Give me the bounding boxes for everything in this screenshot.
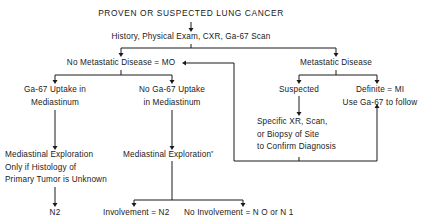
involvement-n2-node: Involvement = N2: [103, 207, 169, 220]
definite-line1: Definite = MI: [343, 84, 418, 97]
n2-result-node: N2: [50, 207, 61, 220]
ga67-uptake-line2: Mediastinum: [24, 97, 86, 110]
ga67-uptake-line1: Ga-67 Uptake in: [24, 84, 86, 97]
no-ga67-uptake-line2: in Mediastinum: [139, 97, 205, 110]
no-metastatic-disease-node: No Metastatic Disease = MO: [67, 57, 175, 70]
confirm-line3: to Confirm Diagnosis: [257, 141, 336, 154]
no-ga67-uptake-node: No Ga-67 Uptake in Mediastinum: [139, 84, 205, 109]
mediastinal-exploration-node: Mediastinal Exploration*: [123, 149, 214, 162]
exploration-line3: Primary Tumor is Unknown: [5, 174, 107, 187]
exploration-line1: Mediastinal Exploration: [5, 149, 107, 162]
confirm-line1: Specific XR, Scan,: [257, 116, 336, 129]
no-ga67-uptake-line1: No Ga-67 Uptake: [139, 84, 205, 97]
arrowhead: [182, 61, 186, 66]
ga67-uptake-node: Ga-67 Uptake in Mediastinum: [24, 84, 86, 109]
confirm-diagnosis-node: Specific XR, Scan, or Biopsy of Site to …: [257, 116, 336, 154]
initial-workup-node: History, Physical Exam, CXR, Ga-67 Scan: [111, 31, 270, 44]
definite-line2: Use Ga-67 to follow: [343, 97, 418, 110]
title-node: PROVEN OR SUSPECTED LUNG CANCER: [98, 7, 284, 20]
confirm-line2: or Biopsy of Site: [257, 129, 336, 142]
suspected-node: Suspected: [279, 84, 319, 97]
metastatic-disease-node: Metastatic Disease: [300, 57, 372, 70]
no-involvement-node: No Involvement = N O or N 1: [184, 207, 293, 220]
definite-m1-node: Definite = MI Use Ga-67 to follow: [343, 84, 418, 109]
footnote-marker: *: [211, 150, 214, 156]
exploration-label: Mediastinal Exploration: [123, 150, 211, 159]
mediastinal-exploration-conditional-node: Mediastinal Exploration Only if Histolog…: [5, 149, 107, 187]
exploration-line2: Only if Histology of: [5, 162, 107, 175]
